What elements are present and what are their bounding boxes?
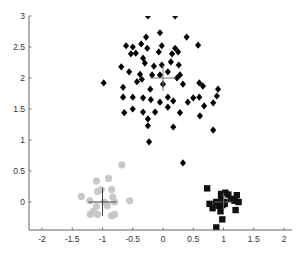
data-point-square — [231, 198, 237, 204]
data-point-diamond — [148, 96, 154, 103]
data-point-diamond — [180, 159, 186, 166]
data-point-diamond — [156, 48, 162, 55]
plot-area — [78, 12, 244, 238]
data-point-diamond — [123, 42, 129, 49]
y-tick-label: 1 — [20, 135, 25, 145]
data-point-diamond — [184, 33, 190, 40]
data-point-diamond — [165, 104, 171, 111]
data-point-diamond — [169, 50, 175, 57]
x-tick-label: -1.5 — [65, 234, 80, 244]
y-tick-label: 1.5 — [13, 104, 25, 114]
data-point-square — [232, 207, 238, 213]
data-point-circle — [111, 211, 118, 218]
data-point-diamond — [138, 40, 144, 47]
data-point-diamond — [165, 94, 171, 101]
data-point-diamond — [130, 43, 136, 50]
data-point-diamond — [140, 94, 146, 101]
data-point-circle — [104, 202, 111, 209]
data-point-diamond — [101, 79, 107, 86]
scatter-chart: -2-1.5-1-0.500.511.52 00.511.522.53 — [0, 0, 302, 254]
data-point-diamond — [146, 138, 152, 145]
y-tick-label: 0.5 — [13, 166, 25, 176]
data-point-diamond — [170, 123, 176, 130]
series-cluster-diamonds — [101, 12, 221, 166]
data-point-diamond — [149, 71, 155, 78]
data-point-diamond — [121, 109, 127, 116]
data-point-diamond — [210, 99, 216, 106]
data-point-diamond — [170, 97, 176, 104]
data-point-square — [219, 216, 225, 222]
data-point-diamond — [152, 109, 158, 116]
data-point-diamond — [157, 99, 163, 106]
data-point-diamond — [185, 99, 191, 106]
data-point-diamond — [144, 45, 150, 52]
x-tick-label: 1.5 — [248, 234, 260, 244]
data-point-diamond — [195, 42, 201, 49]
x-tick-label: 1 — [221, 234, 226, 244]
y-tick-label: 3 — [20, 11, 25, 21]
x-tick-label: -2 — [38, 234, 46, 244]
data-point-square — [237, 232, 243, 238]
x-tick-label: -0.5 — [125, 234, 140, 244]
data-point-diamond — [126, 68, 132, 75]
data-point-square — [234, 192, 240, 198]
x-tick-label: 2 — [282, 234, 287, 244]
y-tick-label: 2.5 — [13, 42, 25, 52]
data-point-circle — [108, 186, 115, 193]
data-point-diamond — [165, 68, 171, 75]
data-point-diamond — [197, 112, 203, 119]
data-point-diamond — [128, 50, 134, 57]
y-tick-label: 0 — [20, 197, 25, 207]
data-point-square — [204, 185, 210, 191]
data-point-diamond — [147, 86, 153, 93]
data-point-diamond — [159, 61, 165, 68]
x-tick-label: -1 — [99, 234, 107, 244]
data-point-diamond — [201, 102, 207, 109]
data-point-diamond — [133, 50, 139, 57]
data-point-circle — [105, 175, 112, 182]
data-point-circle — [87, 211, 94, 218]
data-point-circle — [118, 161, 125, 168]
data-point-circle — [78, 193, 85, 200]
data-point-diamond — [120, 94, 126, 101]
data-point-diamond — [140, 109, 146, 116]
x-tick-label: 0 — [161, 234, 166, 244]
data-point-circle — [94, 188, 101, 195]
data-point-diamond — [180, 81, 186, 88]
data-point-diamond — [145, 115, 151, 122]
data-point-diamond — [130, 94, 136, 101]
data-point-diamond — [172, 12, 178, 19]
data-point-diamond — [176, 61, 182, 68]
data-point-square — [217, 208, 223, 214]
y-tick-label: 2 — [20, 73, 25, 83]
data-point-diamond — [118, 63, 124, 70]
data-point-diamond — [157, 71, 163, 78]
data-point-diamond — [145, 12, 151, 19]
data-point-diamond — [196, 94, 202, 101]
data-point-diamond — [157, 29, 163, 36]
data-point-circle — [126, 197, 133, 204]
data-point-diamond — [151, 63, 157, 70]
data-point-diamond — [159, 42, 165, 49]
data-point-diamond — [168, 58, 174, 65]
axes: -2-1.5-1-0.500.511.52 00.511.522.53 — [13, 11, 292, 244]
data-point-diamond — [190, 94, 196, 101]
data-point-diamond — [215, 86, 221, 93]
data-point-diamond — [177, 109, 183, 116]
data-point-diamond — [210, 126, 216, 133]
data-point-circle — [94, 211, 101, 218]
data-point-diamond — [130, 105, 136, 112]
data-point-diamond — [120, 84, 126, 91]
data-point-diamond — [214, 92, 220, 99]
data-point-circle — [86, 197, 93, 204]
data-point-circle — [93, 177, 100, 184]
x-tick-label: 0.5 — [187, 234, 199, 244]
data-point-square — [209, 205, 215, 211]
series-cluster-circles — [78, 161, 134, 219]
data-point-diamond — [145, 122, 151, 129]
data-point-diamond — [143, 33, 149, 40]
